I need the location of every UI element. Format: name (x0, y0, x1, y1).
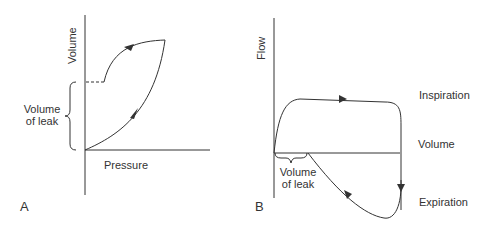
panel-b-expiratory-limb (308, 153, 401, 218)
panel-b-leak-line1: Volume (276, 166, 320, 178)
panel-a-arrow-up-icon (130, 108, 138, 119)
panel-b-leak-line2: of leak (276, 178, 320, 190)
panel-b-expiration-label: Expiration (419, 196, 468, 208)
panel-b-arrow-right-icon (339, 95, 347, 103)
panel-b-letter: B (255, 201, 264, 213)
panel-b-inspiration-label: Inspiration (419, 89, 470, 101)
panel-a-leak-line1: Volume (20, 103, 64, 115)
panel-a-leak-line2: of leak (20, 115, 64, 127)
panel-b-leak-brace (275, 153, 307, 163)
panel-b-x-axis-label: Volume (418, 138, 455, 150)
panel-a-y-axis-label: Volume (66, 27, 78, 64)
panel-b-y-axis-label: Flow (255, 37, 267, 60)
panel-a-x-axis-label: Pressure (104, 159, 148, 171)
panel-a-letter: A (20, 201, 29, 213)
panel-b-inspiratory-limb (274, 99, 401, 210)
panel-a-leak-annotation: Volume of leak (20, 103, 64, 127)
panel-a-leak-brace (65, 82, 76, 150)
panel-b-arrow-down-icon (397, 184, 405, 192)
panel-a-inspiratory-limb (85, 40, 165, 150)
panel-b-leak-annotation: Volume of leak (276, 166, 320, 190)
panel-a-expiratory-limb (104, 40, 165, 82)
